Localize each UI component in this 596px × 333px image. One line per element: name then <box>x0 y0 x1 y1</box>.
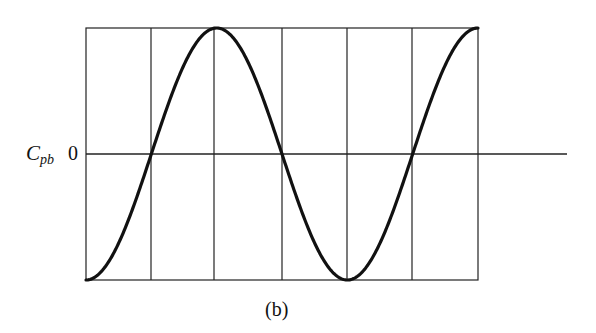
y-axis-label-subscript: pb <box>40 152 54 167</box>
y-axis-label-main: C <box>26 141 40 165</box>
y-axis-label: Cpb <box>26 141 54 168</box>
chart-plot-area <box>0 0 596 333</box>
figure-caption: (b) <box>265 298 288 321</box>
y-tick-zero: 0 <box>68 142 78 165</box>
